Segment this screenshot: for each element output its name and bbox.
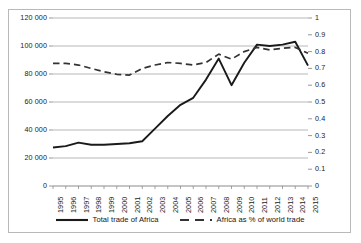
x-axis-tick-label: 2012 xyxy=(273,197,282,213)
y-axis-left-tick-label: 40 000 xyxy=(9,125,47,134)
x-axis-tick-label: 2000 xyxy=(120,197,129,213)
y-axis-right-tick-label: 0.6 xyxy=(315,80,325,89)
chart-frame: 020 00040 00060 00080 000100 000120 000 … xyxy=(8,9,351,233)
x-axis-tick-label: 1997 xyxy=(82,197,91,213)
y-axis-right-tick-label: 0 xyxy=(315,181,319,190)
series-lines-group xyxy=(53,42,308,148)
legend-label-africa-as-percent-of-world-trade: Africa as % of world trade xyxy=(217,215,305,224)
legend-item-africa-as-percent-of-world-trade: Africa as % of world trade xyxy=(179,215,305,224)
y-axis-right-tick-label: 0.7 xyxy=(315,63,325,72)
y-axis-left-tick-label: 0 xyxy=(9,181,47,190)
x-axis-tick-label: 2009 xyxy=(235,197,244,213)
x-axis-tick-label: 1995 xyxy=(56,197,65,213)
x-axis-tick-label: 2008 xyxy=(222,197,231,213)
legend-label-total-trade-of-africa: Total trade of Africa xyxy=(93,215,159,224)
y-axis-right-tick-label: 0.8 xyxy=(315,47,325,56)
y-axis-right-tick-label: 0.3 xyxy=(315,131,325,140)
y-axis-right-tick-label: 0.2 xyxy=(315,147,325,156)
chart-legend: Total trade of Africa Africa as % of wor… xyxy=(9,215,350,224)
x-axis-tick-label: 1996 xyxy=(69,197,78,213)
x-axis-tick-label: 1999 xyxy=(107,197,116,213)
y-axis-right-tick-label: 0.4 xyxy=(315,114,325,123)
x-axis-tick-label: 2010 xyxy=(247,197,256,213)
y-axis-right-tick-label: 0.9 xyxy=(315,30,325,39)
x-axis-tick-label: 2015 xyxy=(311,197,320,213)
x-axis-tick-label: 2003 xyxy=(158,197,167,213)
legend-solid-line-swatch xyxy=(55,216,89,224)
x-axis-tick-label: 2011 xyxy=(260,197,269,213)
y-axis-left-tick-label: 120 000 xyxy=(9,13,47,22)
legend-dashed-line-swatch xyxy=(179,216,213,224)
series-line-2 xyxy=(53,47,308,75)
x-axis-tick-label: 2005 xyxy=(184,197,193,213)
x-axis-tick-label: 2014 xyxy=(298,197,307,213)
x-axis-tick-label: 2007 xyxy=(209,197,218,213)
chart-figure: 020 00040 00060 00080 000100 000120 000 … xyxy=(0,0,361,243)
x-axis-tick-label: 2002 xyxy=(145,197,154,213)
axis-tick-marks-group xyxy=(49,18,312,189)
x-axis-tick-label: 2001 xyxy=(133,197,142,213)
y-axis-right-tick-label: 0.5 xyxy=(315,97,325,106)
gridlines-group xyxy=(53,18,308,186)
series-line-1 xyxy=(53,42,308,148)
y-axis-right-tick-label: 0.1 xyxy=(315,164,325,173)
x-axis-tick-label: 2004 xyxy=(171,197,180,213)
legend-item-total-trade-of-africa: Total trade of Africa xyxy=(55,215,159,224)
y-axis-left-tick-label: 20 000 xyxy=(9,153,47,162)
x-axis-tick-label: 2013 xyxy=(286,197,295,213)
x-axis-tick-label: 1998 xyxy=(94,197,103,213)
y-axis-left-tick-label: 60 000 xyxy=(9,97,47,106)
y-axis-left-tick-label: 100 000 xyxy=(9,41,47,50)
x-axis-tick-label: 2006 xyxy=(196,197,205,213)
y-axis-left-tick-label: 80 000 xyxy=(9,69,47,78)
y-axis-right-tick-label: 1 xyxy=(315,13,319,22)
